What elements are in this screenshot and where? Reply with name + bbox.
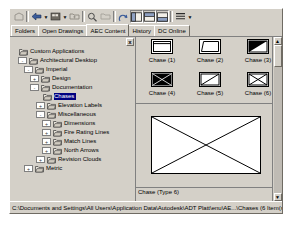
description-pane: Chase (Type 6) <box>136 187 282 201</box>
rect-notch-icon[interactable] <box>151 39 173 54</box>
toolbar-separator-3 <box>113 11 116 22</box>
collapse-icon[interactable]: - <box>30 84 39 91</box>
scroll-track[interactable] <box>274 67 282 193</box>
content-item[interactable]: Chase (1) <box>138 37 186 70</box>
tab-folders[interactable]: Folders <box>11 25 39 36</box>
forward-icon[interactable] <box>49 10 62 23</box>
load-icon[interactable] <box>12 10 25 23</box>
folder-icon <box>35 66 44 74</box>
folder-icon <box>43 93 52 101</box>
views-dropdown-arrow[interactable]: ▼ <box>187 10 193 23</box>
folder-icon <box>53 129 62 137</box>
expand-icon[interactable]: + <box>42 138 51 145</box>
status-bar: C:\Documents and Settings\All Users\Appl… <box>10 201 282 213</box>
up-folder-icon[interactable] <box>68 10 81 23</box>
tree-item[interactable]: +Revision Clouds <box>12 155 135 164</box>
expand-icon[interactable]: + <box>24 165 33 172</box>
tab-dc-online[interactable]: DC Online <box>154 25 190 36</box>
tree-item-label: Documentation <box>52 84 94 91</box>
filled-dark-icon[interactable] <box>151 72 173 87</box>
content-tree[interactable]: Custom Applications-Architectural Deskto… <box>10 46 135 201</box>
expand-icon[interactable]: + <box>42 120 51 127</box>
content-item-label: Chase (2) <box>197 57 223 64</box>
folder-icon <box>35 165 44 173</box>
half-filled-diagonal-icon[interactable] <box>247 39 269 54</box>
tree-pane: x Custom Applications-Architectural Desk… <box>10 37 136 201</box>
expand-icon[interactable]: + <box>36 156 45 163</box>
folder-icon <box>29 57 38 65</box>
tree-view-toggle-icon[interactable] <box>130 10 143 23</box>
tab-open-drawings[interactable]: Open Drawings <box>38 25 87 36</box>
expand-icon[interactable]: + <box>42 129 51 136</box>
tree-item-label: Metric <box>46 165 64 172</box>
views-icon[interactable] <box>174 10 187 23</box>
content-item-label: Chase (3) <box>245 57 271 64</box>
tree-item[interactable]: +Design <box>12 74 135 83</box>
content-item[interactable]: Chase (5) <box>186 70 234 103</box>
collapse-icon[interactable]: - <box>36 111 45 118</box>
close-icon[interactable]: x <box>126 38 134 46</box>
preview-x-graphic <box>152 117 260 173</box>
folder-icon <box>47 102 56 110</box>
scroll-up-button[interactable]: ▲ <box>274 37 282 45</box>
tree-item-label: Chases <box>54 93 76 100</box>
back-arrow-icon[interactable] <box>30 10 43 23</box>
tab-strip: Folders Open Drawings AEC Content Histor… <box>10 24 282 36</box>
toolbar-separator-4 <box>170 11 173 22</box>
tree-item[interactable]: -Documentation <box>12 83 135 92</box>
vertical-scrollbar[interactable]: ▲ ▼ <box>272 37 282 201</box>
search-icon[interactable] <box>86 10 99 23</box>
favorites-icon[interactable] <box>99 10 112 23</box>
expand-icon[interactable]: + <box>36 102 45 109</box>
tree-item[interactable]: -Miscellaneous <box>12 110 135 119</box>
content-item-label: Chase (4) <box>149 90 175 97</box>
tree-item-label: Imperial <box>46 66 69 73</box>
trapezoid-icon[interactable] <box>199 39 221 54</box>
tree-item-label: Dimensions <box>64 120 97 127</box>
tree-item-label: Custom Applications <box>30 48 86 55</box>
toolbar-separator-2 <box>82 11 85 22</box>
content-pane: Chase (1)Chase (2)Chase (3)Chase (4)Chas… <box>136 37 282 201</box>
folder-icon <box>41 75 50 83</box>
description-icon[interactable] <box>156 10 169 23</box>
expand-icon[interactable]: + <box>42 147 51 154</box>
description-text: Chase (Type 6) <box>138 189 179 195</box>
expand-icon[interactable]: + <box>30 75 39 82</box>
tree-item[interactable]: +Metric <box>12 164 135 173</box>
tree-spacer <box>36 93 43 100</box>
content-item-label: Chase (5) <box>197 90 223 97</box>
tree-item[interactable]: -Imperial <box>12 65 135 74</box>
designcenter-window: ▼ ▼ ▼ <box>9 8 283 214</box>
content-icon-grid[interactable]: Chase (1)Chase (2)Chase (3)Chase (4)Chas… <box>136 37 282 103</box>
content-item-label: Chase (1) <box>149 57 175 64</box>
tree-item[interactable]: -Architectural Desktop <box>12 56 135 65</box>
tree-item[interactable]: Chases <box>12 92 135 101</box>
tab-aec-content[interactable]: AEC Content <box>86 24 129 36</box>
content-item[interactable]: Chase (4) <box>138 70 186 103</box>
tree-item-label: North Arrows <box>64 147 101 154</box>
collapse-icon[interactable]: - <box>18 57 27 64</box>
tree-pane-header: x <box>10 37 135 46</box>
scroll-thumb[interactable] <box>274 45 282 67</box>
folder-icon <box>53 147 62 155</box>
home-icon[interactable] <box>117 10 130 23</box>
tree-item[interactable]: +North Arrows <box>12 146 135 155</box>
content-item[interactable]: Chase (2) <box>186 37 234 70</box>
tree-item[interactable]: Custom Applications <box>12 47 135 56</box>
folder-icon <box>41 84 50 92</box>
diagonal-line-icon[interactable] <box>199 72 221 87</box>
tree-item[interactable]: +Elevation Labels <box>12 101 135 110</box>
bowtie-x-icon[interactable] <box>247 72 269 87</box>
tree-item[interactable]: +Fire Rating Lines <box>12 128 135 137</box>
scroll-down-button[interactable]: ▼ <box>274 193 282 201</box>
folder-icon <box>53 120 62 128</box>
folder-icon <box>53 138 62 146</box>
status-path-text: C:\Documents and Settings\All Users\Appl… <box>12 205 282 211</box>
tree-item-label: Design <box>52 75 73 82</box>
tree-item[interactable]: +Match Lines <box>12 137 135 146</box>
collapse-icon[interactable]: - <box>24 66 33 73</box>
preview-icon[interactable] <box>143 10 156 23</box>
preview-pane <box>136 103 282 187</box>
tab-history[interactable]: History <box>128 25 155 36</box>
tree-item[interactable]: +Dimensions <box>12 119 135 128</box>
